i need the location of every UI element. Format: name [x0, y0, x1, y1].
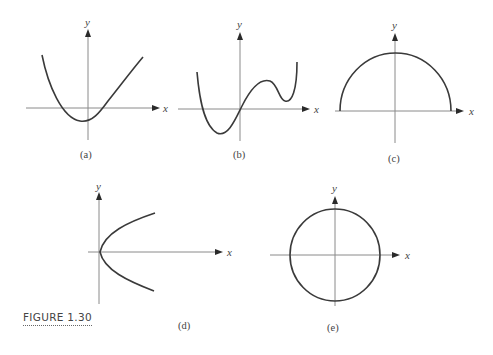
y-axis-arrow-icon	[392, 33, 398, 41]
panel-label: (c)	[388, 153, 400, 165]
panel-a: x y (a)	[26, 16, 168, 161]
x-axis-arrow-icon	[392, 252, 400, 258]
x-axis-label: x	[468, 105, 474, 117]
y-axis-arrow-icon	[85, 29, 91, 37]
quartic-curve	[197, 62, 297, 134]
y-axis-arrow-icon	[237, 32, 243, 40]
x-axis-arrow-icon	[215, 249, 223, 255]
x-axis-arrow-icon	[302, 106, 310, 112]
panel-label: (d)	[178, 320, 191, 332]
panel-label: (a)	[80, 149, 92, 161]
x-axis-label: x	[313, 103, 319, 115]
panel-b: x y (b)	[178, 18, 319, 161]
panel-c: x y (c)	[335, 19, 474, 165]
panel-d: x y (d)	[88, 180, 232, 332]
panel-label: (b)	[233, 149, 246, 161]
figure-1-30: x y (a) x y (b) x y (c) x y (d)	[0, 0, 493, 355]
y-axis-label: y	[84, 16, 90, 28]
panel-label: (e)	[327, 322, 339, 334]
x-axis-label: x	[162, 102, 168, 114]
x-axis-arrow-icon	[152, 105, 160, 111]
x-axis-label: x	[226, 246, 232, 258]
y-axis-label: y	[331, 182, 337, 194]
x-axis-arrow-icon	[456, 108, 464, 114]
y-axis-arrow-icon	[332, 196, 338, 204]
figure-caption: FIGURE 1.30	[23, 311, 92, 326]
y-axis-label: y	[236, 18, 242, 30]
y-axis-arrow-icon	[96, 192, 102, 200]
panel-e: x y (e)	[270, 182, 410, 334]
y-axis-label: y	[95, 180, 101, 192]
y-axis-label: y	[391, 19, 397, 31]
parabola-curve	[42, 55, 143, 121]
x-axis-label: x	[404, 249, 410, 261]
